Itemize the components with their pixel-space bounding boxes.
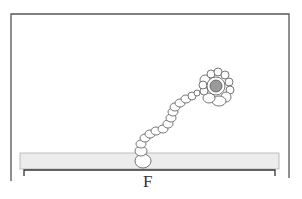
nucleus: [210, 80, 222, 92]
cluster-cell: [199, 81, 207, 89]
chain-cell: [194, 90, 200, 96]
cluster-cell: [225, 78, 233, 86]
diagram-canvas: [0, 0, 302, 199]
figure-label: F: [143, 172, 152, 192]
cell-cluster: [199, 68, 234, 106]
